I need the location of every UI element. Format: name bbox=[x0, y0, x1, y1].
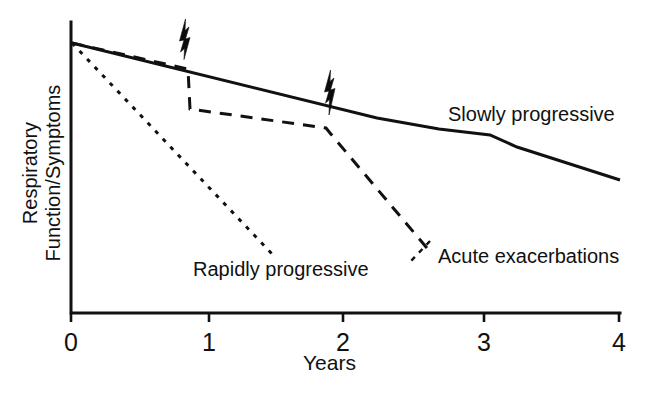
x-axis-title: Years bbox=[303, 352, 356, 373]
x-tick-label-1: 1 bbox=[189, 330, 229, 355]
series-rapidly-progressive bbox=[72, 43, 274, 256]
series-label-rapidly-progressive: Rapidly progressive bbox=[193, 259, 369, 279]
y-axis-title-line-1: Respiratory bbox=[19, 53, 42, 293]
y-axis-title-line-2: Function/Symptoms bbox=[42, 53, 65, 293]
series-acute-exacerbations bbox=[72, 43, 432, 254]
x-tick-label-0: 0 bbox=[51, 330, 91, 355]
series-label-slowly-progressive: Slowly progressive bbox=[448, 104, 615, 124]
series-label-acute-exacerbations: Acute exacerbations bbox=[438, 246, 619, 266]
x-tick-label-4: 4 bbox=[599, 330, 639, 355]
acute-exacerbations-leader-line bbox=[411, 241, 430, 261]
lightning-bolt-icon bbox=[180, 19, 191, 60]
x-tick-label-3: 3 bbox=[464, 330, 504, 355]
chart-figure: Respiratory Function/Symptoms 0 1 2 3 4 … bbox=[0, 0, 646, 407]
y-axis-title: Respiratory Function/Symptoms bbox=[19, 53, 65, 293]
